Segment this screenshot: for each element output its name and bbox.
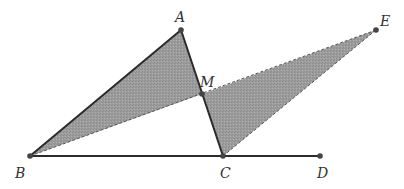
- point-M-label: M: [199, 74, 215, 90]
- triangle-ABM: [30, 30, 202, 156]
- point-A-label: A: [173, 9, 185, 25]
- triangle-MCE: [202, 30, 376, 156]
- point-B-dot: [27, 153, 33, 159]
- points: [27, 27, 379, 159]
- point-D-label: D: [316, 165, 328, 181]
- geometry-diagram: ABCDEM: [0, 0, 404, 189]
- point-A-dot: [178, 27, 184, 33]
- point-B-label: B: [14, 165, 25, 181]
- point-E-label: E: [379, 13, 390, 29]
- point-C-dot: [220, 153, 226, 159]
- point-E-dot: [373, 27, 379, 33]
- point-D-dot: [317, 153, 323, 159]
- point-C-label: C: [220, 165, 231, 181]
- point-M-dot: [199, 91, 205, 97]
